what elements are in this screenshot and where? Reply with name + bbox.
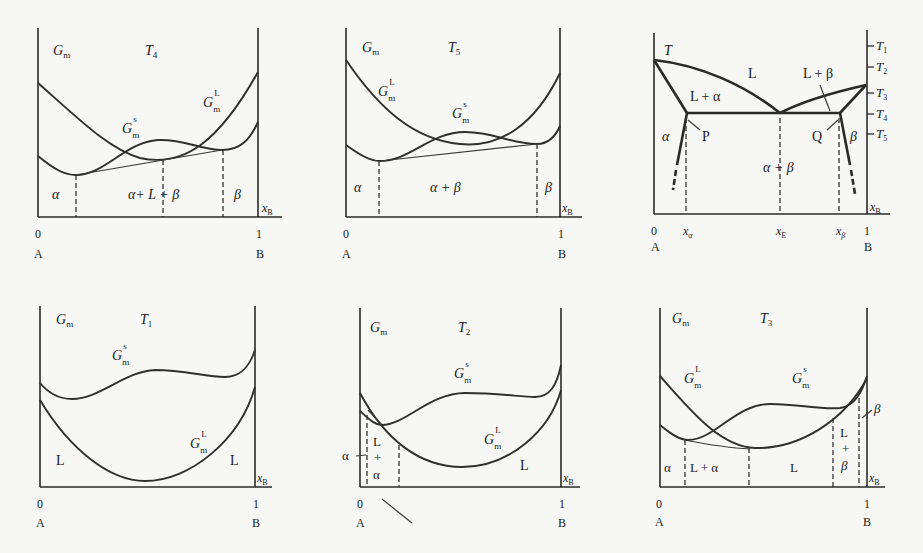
region-label-beta: β — [840, 458, 848, 473]
solvus-right-dashed — [851, 170, 855, 194]
tick-one: 1 — [864, 497, 870, 511]
region-label-liquid: L — [790, 460, 798, 475]
component-a-label: A — [655, 515, 664, 529]
tick-x-beta: xβ — [835, 224, 845, 240]
panel-gibbs-t4: Gm T4 GmL Gms α α+ L + β β xB 0 1 A B — [34, 28, 282, 261]
liquid-curve-label: GmL — [484, 425, 501, 451]
x-axis-label: xB — [869, 200, 881, 216]
region-label-alpha: α — [354, 180, 362, 195]
y-axis-label: Gm — [53, 43, 70, 60]
tick-zero: 0 — [35, 227, 41, 241]
x-axis-label: xB — [562, 471, 574, 487]
p-leader-line — [688, 120, 700, 130]
tick-one: 1 — [559, 497, 565, 511]
tick-x-eutectic: xE — [775, 224, 786, 240]
panel-gibbs-t3: Gm T3 GmL Gms α L + α L L + β β xB 0 1 A… — [655, 308, 885, 529]
region-label-liquid-left: L — [56, 453, 65, 468]
temperature-label: T1 — [140, 312, 152, 329]
region-label-l-beta: L + β — [803, 66, 833, 81]
component-a-label: A — [651, 240, 660, 254]
tick-x-alpha: xα — [682, 224, 693, 240]
liquid-curve-label: GmL — [378, 77, 395, 103]
panel-gibbs-t5: Gm T5 GmL Gms α α + β β xB 0 1 A B — [342, 28, 582, 261]
region-label-plus: + — [374, 450, 381, 465]
q-leader-line — [827, 120, 838, 130]
tick-zero: 0 — [37, 497, 43, 511]
component-a-label: A — [34, 247, 43, 261]
tick-zero: 0 — [343, 227, 349, 241]
region-label-liquid-right: L — [230, 453, 239, 468]
gibbs-energy-phase-diagram-figure: Gm T4 GmL Gms α α+ L + β β xB 0 1 A B Gm… — [0, 0, 923, 553]
solid-curve-label: Gms — [452, 99, 469, 125]
tick-zero: 0 — [651, 224, 657, 238]
common-tangent-line — [76, 150, 222, 175]
x-axis-label: xB — [561, 201, 573, 217]
component-a-label: A — [342, 247, 351, 261]
liquid-curve-label: GmL — [203, 88, 220, 114]
liquidus-left — [654, 60, 780, 113]
temperature-label-t2: T2 — [876, 59, 887, 76]
solidus-left — [654, 60, 687, 113]
temperature-label: T3 — [760, 311, 773, 328]
temperature-label-t5: T5 — [876, 126, 887, 143]
liquid-gibbs-curve — [38, 72, 258, 160]
region-label-three-phase: α+ L + β — [128, 187, 179, 202]
temperature-label-t4: T4 — [876, 106, 887, 123]
region-label-beta-pointer: β — [873, 401, 881, 416]
solid-curve-label: Gms — [122, 114, 139, 140]
region-label-alpha: α — [52, 187, 60, 202]
component-b-label: B — [558, 247, 566, 261]
tick-zero: 0 — [357, 497, 363, 511]
tick-one: 1 — [253, 497, 259, 511]
x-axis-label: xB — [261, 201, 273, 217]
alpha-leader-line — [356, 455, 366, 456]
component-b-label: B — [252, 516, 260, 530]
region-label-l: L — [373, 434, 381, 449]
component-b-label: B — [863, 515, 871, 529]
point-p-label: P — [702, 129, 710, 144]
temperature-label: T2 — [458, 320, 470, 337]
solid-curve-label: Gms — [454, 359, 471, 385]
solvus-right — [840, 113, 850, 165]
region-label-plus: + — [842, 441, 849, 456]
solvus-left-dashed — [673, 170, 676, 190]
liquid-gibbs-curve — [346, 60, 560, 144]
panel-gibbs-t2: Gm T2 Gms GmL α L + α L xB 0 1 A B — [342, 308, 580, 530]
tick-one: 1 — [864, 224, 870, 238]
component-b-label: B — [864, 240, 872, 254]
x-axis-label: xB — [868, 471, 880, 487]
region-label-alpha-beta: α + β — [763, 160, 794, 175]
region-label-alpha: α — [342, 448, 349, 463]
temperature-label-t3: T3 — [876, 85, 887, 102]
temperature-label: T4 — [145, 43, 158, 60]
region-label-liquid: L — [748, 66, 757, 81]
y-axis-label: T — [664, 43, 673, 58]
region-label-l-alpha: L + α — [690, 460, 718, 475]
region-label-l: L — [840, 425, 848, 440]
common-tangent-line — [380, 144, 537, 161]
region-label-two-phase: α + β — [430, 180, 461, 195]
liquid-gibbs-curve — [360, 390, 561, 467]
liquid-gibbs-curve — [40, 387, 255, 481]
component-a-label: A — [36, 516, 45, 530]
solid-gibbs-curve — [38, 122, 258, 175]
region-label-beta: β — [544, 180, 552, 195]
point-q-label: Q — [812, 129, 822, 144]
y-axis-label: Gm — [362, 40, 379, 57]
solid-curve-label: Gms — [792, 364, 809, 390]
solid-curve-label: Gms — [112, 341, 129, 367]
y-axis-label: Gm — [56, 312, 73, 329]
region-label-beta: β — [233, 187, 241, 202]
tick-zero: 0 — [656, 497, 662, 511]
liquid-gibbs-curve — [660, 376, 867, 448]
component-b-label: B — [558, 516, 566, 530]
liquid-curve-label: GmL — [190, 429, 207, 455]
component-a-label: A — [356, 516, 365, 530]
temperature-label-t1: T1 — [876, 38, 887, 55]
region-label-liquid: L — [520, 458, 529, 473]
y-axis-label: Gm — [370, 320, 387, 337]
region-label-alpha: α — [664, 460, 671, 475]
panel-gibbs-t1: Gm T1 Gms GmL L L xB 0 1 A B — [36, 306, 272, 530]
region-label-alpha: α — [662, 129, 670, 144]
region-label-beta: β — [849, 129, 857, 144]
